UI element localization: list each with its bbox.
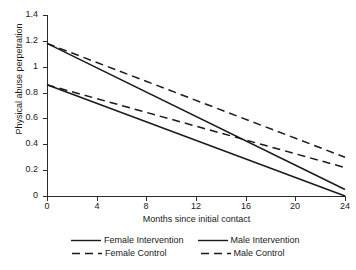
legend-item-female-control: Female Control: [72, 249, 167, 258]
x-tick-label: 0: [35, 202, 59, 211]
y-tick-label: 0.8: [12, 88, 38, 97]
dashed-line-icon: [201, 249, 231, 258]
legend-label: Male Control: [234, 249, 285, 258]
x-tick-label: 16: [234, 202, 258, 211]
legend-label: Male Intervention: [231, 236, 300, 245]
y-tick-label: 1.2: [12, 36, 38, 45]
y-tick-label: 0: [12, 191, 38, 200]
x-tick-label: 20: [283, 202, 307, 211]
solid-line-icon: [71, 236, 101, 245]
y-tick-label: 1: [12, 62, 38, 71]
series-line: [47, 85, 345, 168]
legend-row: Female Control Male Control: [47, 247, 346, 260]
y-axis-title: Physical abuse perpetration: [14, 4, 24, 154]
plot-area: [47, 15, 345, 196]
y-tick-label: 0.6: [12, 113, 38, 122]
y-tick-label: 0.4: [12, 139, 38, 148]
x-tick-label: 4: [85, 202, 109, 211]
x-tick-label: 8: [134, 202, 158, 211]
x-tick-label: 12: [184, 202, 208, 211]
legend-item-male-intervention: Male Intervention: [198, 236, 300, 245]
x-axis-title: Months since initial contact: [47, 214, 346, 224]
series-line: [47, 85, 345, 196]
solid-line-icon: [198, 236, 228, 245]
series-line: [47, 43, 345, 189]
legend-label: Female Intervention: [104, 236, 184, 245]
legend-item-female-intervention: Female Intervention: [71, 236, 184, 245]
y-tick-label: 0.2: [12, 165, 38, 174]
legend-row: Female Intervention Male Intervention: [47, 234, 346, 247]
series-lines: [47, 15, 345, 196]
y-tick-label: 1.4: [12, 10, 38, 19]
x-tick-label: 24: [333, 202, 356, 211]
legend-item-male-control: Male Control: [201, 249, 285, 258]
dashed-line-icon: [72, 249, 102, 258]
chart-figure: Physical abuse perpetration 00.20.40.60.…: [0, 0, 356, 270]
legend-label: Female Control: [105, 249, 167, 258]
chart-legend: Female Intervention Male Intervention Fe…: [47, 234, 346, 260]
